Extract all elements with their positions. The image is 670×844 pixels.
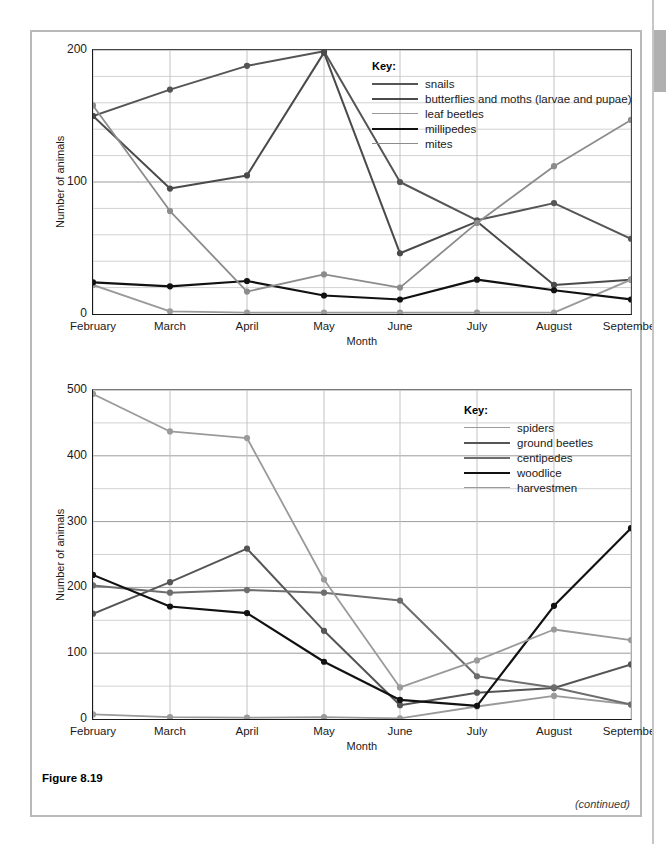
legend-line-swatch [372,83,418,85]
data-point [244,310,250,314]
data-point [244,587,250,593]
data-point [244,288,250,294]
series-woodlice [93,525,631,709]
data-point [397,310,403,314]
continued-note: (continued) [32,798,630,810]
data-point [244,610,250,616]
chart-top-legend-title: Key: [372,60,631,72]
legend-item-label: harvestmen [517,482,577,494]
data-point [397,715,403,719]
y-tick-label: 0 [47,711,87,725]
data-point [397,697,403,703]
legend-line-swatch [464,487,510,488]
data-point [474,673,480,679]
data-point [167,87,173,93]
legend-item-label: millipedes [425,123,476,135]
x-tick-label: May [284,725,364,737]
legend-item: spiders [464,420,593,435]
legend-item: leaf beetles [372,106,631,121]
data-point [321,714,327,719]
x-tick-label: June [360,725,440,737]
legend-item: snails [372,76,631,91]
data-point [551,163,557,169]
data-point [167,590,173,596]
series-spiders [93,693,631,719]
chart-bottom-legend: Key: spidersground beetlescentipedeswood… [464,404,593,495]
data-point [167,308,173,314]
series-line [93,696,631,718]
data-point [167,579,173,585]
x-tick-label: June [360,320,440,332]
legend-item: centipedes [464,450,593,465]
y-tick-label: 200 [47,42,87,56]
data-point [551,626,557,632]
legend-line-swatch [372,113,418,114]
data-point [551,603,557,609]
data-point [397,597,403,603]
legend-item-label: ground beetles [517,437,593,449]
legend-item-label: woodlice [517,467,562,479]
x-tick-label: February [53,725,133,737]
y-tick-label: 100 [47,174,87,188]
data-point [551,684,557,690]
y-tick-label: 200 [47,579,87,593]
x-tick-label: February [53,320,133,332]
x-tick-label: July [437,725,517,737]
data-point [321,628,327,634]
data-point [321,271,327,277]
x-tick-label: March [130,725,210,737]
y-tick-label: 500 [47,382,87,396]
data-point [244,715,250,719]
legend-line-swatch [464,442,510,444]
x-tick-label: April [207,320,287,332]
data-point [167,603,173,609]
series-line [93,585,631,704]
series-line [93,280,631,313]
legend-line-swatch [372,143,418,144]
data-point [474,690,480,696]
y-tick-label: 400 [47,448,87,462]
page-edge-strip [652,0,666,844]
data-point [167,186,173,192]
series-ground-beetles [93,545,631,708]
x-tick-label: March [130,320,210,332]
figure-frame: Number of animals 0100200 FebruaryMarchA… [30,30,642,817]
figure-caption: Figure 8.19 [42,772,103,784]
data-point [551,200,557,206]
chart-top: Number of animals 0100200 FebruaryMarchA… [32,32,640,372]
x-tick-label: August [514,320,594,332]
data-point [628,701,631,707]
data-point [321,292,327,298]
legend-item: woodlice [464,465,593,480]
data-point [474,703,480,709]
data-point [321,659,327,665]
data-point [474,310,480,314]
data-point [397,285,403,291]
legend-item: millipedes [372,121,631,136]
chart-top-legend: Key: snailsbutterflies and moths (larvae… [372,60,631,151]
legend-item-label: leaf beetles [425,108,484,120]
y-tick-label: 300 [47,514,87,528]
data-point [167,428,173,434]
legend-item: harvestmen [464,480,593,495]
legend-item-label: butterflies and moths (larvae and pupae) [425,93,631,105]
chart-bottom-legend-title: Key: [464,404,593,416]
y-tick-label: 100 [47,645,87,659]
data-point [474,657,480,663]
legend-item: butterflies and moths (larvae and pupae) [372,91,631,106]
data-point [628,277,631,283]
data-point [167,283,173,289]
data-point [474,220,480,226]
legend-item: ground beetles [464,435,593,450]
data-point [321,576,327,582]
data-point [244,172,250,178]
legend-line-swatch [464,472,510,474]
data-point [167,714,173,719]
data-point [397,179,403,185]
data-point [628,661,631,667]
legend-line-swatch [372,128,418,130]
legend-item-label: mites [425,138,452,150]
data-point [628,637,631,643]
data-point [321,310,327,314]
page-edge-tab [654,30,666,92]
